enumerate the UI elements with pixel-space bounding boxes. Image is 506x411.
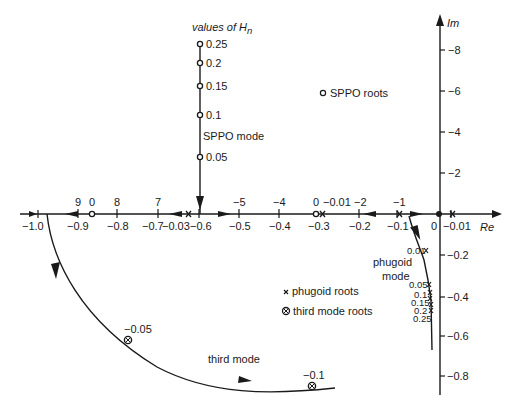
- legend-third-mode-label: third mode roots: [293, 305, 373, 317]
- sppo-down-arrow-icon: [196, 196, 204, 210]
- imaginary-axis: [436, 14, 445, 395]
- third-mode-arrow-icon: [238, 376, 252, 383]
- svg-text:−0.7: −0.7: [142, 220, 164, 232]
- sppo-root-marker: [197, 154, 202, 159]
- svg-text:−1: −1: [393, 196, 406, 208]
- hn-label: 0.2: [206, 57, 221, 69]
- arrow-left-icon: [363, 211, 376, 217]
- svg-text:−2: −2: [448, 167, 461, 179]
- svg-text:7: 7: [155, 196, 161, 208]
- svg-text:−0.6: −0.6: [447, 330, 469, 342]
- third-mode-hn-label: −0.05: [124, 323, 152, 335]
- svg-text:−2: −2: [354, 196, 367, 208]
- svg-text:−0.01: −0.01: [323, 196, 351, 208]
- hn-label: 0.05: [206, 151, 227, 163]
- phugoid-hn-label: 0.01: [407, 245, 426, 256]
- svg-text:0: 0: [431, 220, 437, 232]
- origin-marker: [436, 211, 442, 217]
- svg-text:−0.6: −0.6: [190, 220, 212, 232]
- svg-text:−5: −5: [233, 196, 246, 208]
- root-locus-diagram: values of Hn 0.25 0.2 0.15 0.1 SPPO mode…: [0, 0, 506, 411]
- svg-text:−0.2: −0.2: [447, 249, 469, 261]
- real-axis-tick-labels: −1.0 −0.9 −0.8 −0.7 −0.03 −0.6 −0.5 −0.4…: [22, 220, 494, 233]
- svg-text:−0.8: −0.8: [107, 220, 129, 232]
- svg-text:8: 8: [114, 196, 120, 208]
- third-mode-root-marker: [308, 382, 315, 389]
- svg-text:−4: −4: [448, 126, 461, 138]
- hn-label: 0.25: [206, 38, 227, 50]
- legend-sppo-label: SPPO roots: [330, 87, 389, 99]
- svg-text:−0.4: −0.4: [269, 220, 291, 232]
- real-axis-arrow-icon: [492, 210, 502, 218]
- legend-sppo-icon: [320, 90, 325, 95]
- svg-text:−4: −4: [273, 196, 286, 208]
- arrow-left-icon: [65, 211, 78, 217]
- third-mode-hn-label: −0.1: [303, 369, 325, 381]
- svg-text:−0.1: −0.1: [387, 220, 409, 232]
- arrow-right-icon: [410, 211, 423, 217]
- svg-text:−0.8: −0.8: [447, 370, 469, 382]
- sppo-root-marker: [89, 211, 94, 216]
- hn-label: 0.1: [206, 109, 221, 121]
- third-mode-locus: [47, 214, 335, 392]
- svg-text:−0.2: −0.2: [349, 220, 371, 232]
- third-mode-arrow-icon: [51, 262, 60, 279]
- legend-phugoid-icon: [284, 290, 288, 294]
- svg-text:−8: −8: [448, 44, 461, 56]
- sppo-root-marker: [197, 41, 202, 46]
- arrow-right-icon: [29, 211, 37, 217]
- sppo-root-marker: [197, 60, 202, 65]
- svg-text:−0.4: −0.4: [447, 291, 469, 303]
- root-locus-plot: values of Hn 0.25 0.2 0.15 0.1 SPPO mode…: [0, 0, 506, 411]
- arrow-left-icon: [169, 211, 182, 217]
- svg-text:−0.3: −0.3: [308, 220, 330, 232]
- sppo-root-marker: [197, 83, 202, 88]
- phugoid-mode-label: mode: [382, 270, 410, 282]
- svg-text:−6: −6: [448, 85, 461, 97]
- sppo-mode-label: SPPO mode: [203, 130, 264, 142]
- imag-axis-tick-labels: Im −8 −6 −4 −2 −0.2 −0.4 −0.6 −0.8: [447, 17, 469, 382]
- re-axis-label: Re: [480, 221, 494, 233]
- svg-text:−0.03: −0.03: [162, 220, 190, 232]
- hn-label: 0.15: [206, 80, 227, 92]
- svg-text:0: 0: [89, 196, 95, 208]
- svg-text:−0.5: −0.5: [229, 220, 251, 232]
- sppo-root-marker: [313, 211, 318, 216]
- svg-text:−0.9: −0.9: [67, 220, 89, 232]
- third-mode-label: third mode: [208, 353, 260, 365]
- phugoid-mode-label: phugoid: [373, 256, 412, 268]
- legend-phugoid-label: phugoid roots: [292, 285, 359, 297]
- third-mode-root-marker: [124, 336, 131, 343]
- legend-third-mode-icon: [283, 308, 290, 315]
- im-axis-label: Im: [447, 17, 459, 29]
- svg-text:−1.0: −1.0: [22, 220, 44, 232]
- arrow-right-icon: [218, 211, 231, 217]
- sppo-root-marker: [197, 112, 202, 117]
- svg-text:9: 9: [75, 196, 81, 208]
- imag-axis-arrow-icon: [436, 14, 444, 26]
- phugoid-hn-label: 0.25: [413, 313, 432, 324]
- svg-text:0: 0: [313, 196, 319, 208]
- values-of-hn-label: values of Hn: [192, 21, 252, 36]
- real-axis-upper-labels: 9 0 8 7 −5 −4 0 −0.01 −2 −1: [75, 196, 406, 208]
- svg-text:−0.01: −0.01: [443, 220, 471, 232]
